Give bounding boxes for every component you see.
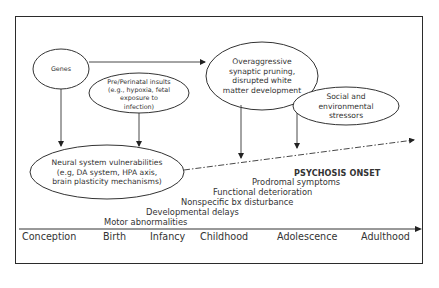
timeline-conception: Conception bbox=[22, 231, 76, 242]
timeline-arrowhead-icon bbox=[415, 226, 422, 232]
psychosis-onset-label: PSYCHOSIS ONSET bbox=[294, 168, 380, 178]
diagram-canvas bbox=[0, 0, 439, 288]
pruning-label: Overaggressive synaptic pruning, disrupt… bbox=[207, 57, 317, 95]
pruning-line-3: disrupted white bbox=[207, 76, 317, 86]
social-label: Social and environmental stressors bbox=[293, 92, 399, 121]
perinatal-line-2: (e.g., hypoxia, fetal bbox=[89, 86, 189, 94]
timeline-adolescence: Adolescence bbox=[277, 231, 337, 242]
neural-label: Neural system vulnerabilities (e.g, DA s… bbox=[32, 158, 182, 187]
neural-line-1: Neural system vulnerabilities bbox=[32, 158, 182, 168]
timeline-adulthood: Adulthood bbox=[361, 231, 410, 242]
stage-developmental-delays: Developmental delays bbox=[146, 207, 239, 217]
neural-line-3: brain plasticity mechanisms) bbox=[32, 177, 182, 187]
perinatal-line-4: infection) bbox=[89, 103, 189, 111]
stage-functional-deterioration: Functional deterioration bbox=[213, 187, 312, 197]
social-line-1: Social and bbox=[293, 92, 399, 102]
stage-prodromal-symptoms: Prodromal symptoms bbox=[252, 177, 340, 187]
perinatal-label: Pre/Perinatal insults (e.g., hypoxia, fe… bbox=[89, 78, 189, 111]
perinatal-line-3: exposure to bbox=[89, 94, 189, 102]
genes-label: Genes bbox=[33, 65, 89, 73]
timeline-birth: Birth bbox=[103, 231, 126, 242]
pruning-line-2: synaptic pruning, bbox=[207, 67, 317, 77]
timeline-childhood: Childhood bbox=[200, 231, 248, 242]
stage-motor-abnormalities: Motor abnormalities bbox=[104, 217, 187, 227]
perinatal-line-1: Pre/Perinatal insults bbox=[89, 78, 189, 86]
stage-nonspecific-bx: Nonspecific bx disturbance bbox=[181, 197, 293, 207]
pruning-line-1: Overaggressive bbox=[207, 57, 317, 67]
social-line-2: environmental bbox=[293, 102, 399, 112]
neural-line-2: (e.g, DA system, HPA axis, bbox=[32, 168, 182, 178]
timeline-infancy: Infancy bbox=[150, 231, 185, 242]
neural-to-onset-dashdot-arrow bbox=[184, 140, 414, 170]
social-line-3: stressors bbox=[293, 111, 399, 121]
